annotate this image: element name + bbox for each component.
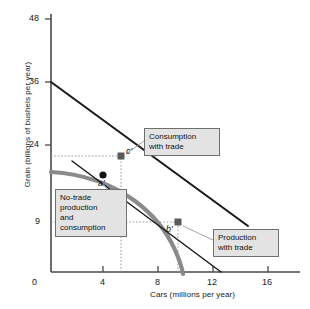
callout-production-line-2: with trade [218, 243, 274, 253]
data-point-c-prime [118, 153, 125, 160]
callout-production-with-trade: Production with trade [213, 229, 279, 257]
callout-production-line-1: Production [218, 233, 274, 243]
y-tick-label-48: 48 [29, 13, 39, 23]
x-tick-label-12: 12 [207, 277, 217, 287]
ppf-trade-chart-figure: a' c' b' 48 36 24 9 0 4 8 12 16 Grain (b… [0, 0, 310, 309]
callout-notrade-line-4: consumption [60, 223, 122, 233]
callout-consumption-line-1: Consumption [149, 132, 215, 142]
leader-line-production [183, 226, 213, 240]
callout-consumption-line-2: with trade [149, 142, 215, 152]
callout-no-trade-production-and-consumption: No-trade production and consumption [55, 189, 127, 237]
x-tick-label-0: 0 [32, 277, 37, 287]
callout-consumption-with-trade: Consumption with trade [144, 128, 220, 156]
callout-notrade-line-1: No-trade [60, 193, 122, 203]
point-label-a-prime: a' [98, 178, 105, 188]
x-axis-title: Cars (millions per year) [150, 290, 235, 299]
point-label-b-prime: b' [166, 224, 173, 234]
x-tick-label-4: 4 [100, 277, 105, 287]
x-tick-label-16: 16 [262, 277, 272, 287]
y-tick-label-9: 9 [35, 216, 40, 226]
data-point-b-prime [175, 219, 182, 226]
x-tick-label-8: 8 [155, 277, 160, 287]
point-label-c-prime: c' [126, 146, 132, 156]
callout-notrade-line-3: and [60, 213, 122, 223]
y-axis-title: Grain (billions of bushels per year) [23, 45, 32, 205]
callout-notrade-line-2: production [60, 203, 122, 213]
